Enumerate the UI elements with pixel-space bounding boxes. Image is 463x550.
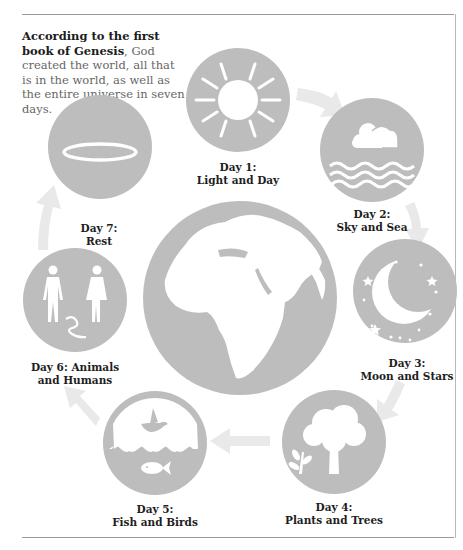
day4-title: Plants and Trees bbox=[264, 514, 404, 527]
day4-tree-icon bbox=[282, 390, 386, 494]
day3-label: Day 3: Moon and Stars bbox=[337, 357, 463, 382]
day3-moon-stars-icon bbox=[353, 239, 457, 343]
day5-number: Day 5: bbox=[85, 503, 225, 516]
day3-title: Moon and Stars bbox=[337, 370, 463, 383]
day2-clouds-waves-icon bbox=[320, 98, 424, 202]
day4-number: Day 4: bbox=[264, 501, 404, 514]
day5-fish-bird-icon bbox=[103, 391, 207, 495]
day3-number: Day 3: bbox=[337, 357, 463, 370]
day6-number: Day 6: Animals bbox=[5, 361, 145, 374]
day1-number: Day 1: bbox=[168, 161, 308, 174]
day1-sun-icon bbox=[186, 48, 290, 152]
day1-label: Day 1: Light and Day bbox=[168, 161, 308, 186]
day2-label: Day 2: Sky and Sea bbox=[302, 208, 442, 233]
day7-number: Day 7: bbox=[29, 222, 169, 235]
day1-title: Light and Day bbox=[168, 174, 308, 187]
creation-cycle-diagram bbox=[0, 0, 463, 550]
day4-label: Day 4: Plants and Trees bbox=[264, 501, 404, 526]
day5-title: Fish and Birds bbox=[85, 516, 225, 529]
day2-title: Sky and Sea bbox=[302, 221, 442, 234]
arrow-day4-to-day5 bbox=[210, 428, 270, 454]
day6-title: and Humans bbox=[5, 374, 145, 387]
day5-label: Day 5: Fish and Birds bbox=[85, 503, 225, 528]
day6-humans-snake-icon bbox=[23, 248, 127, 352]
day6-label: Day 6: Animals and Humans bbox=[5, 361, 145, 386]
arrow-day3-to-day4 bbox=[377, 380, 405, 422]
day2-number: Day 2: bbox=[302, 208, 442, 221]
day7-halo-icon bbox=[48, 95, 152, 199]
arrow-day5-to-day6 bbox=[64, 386, 100, 426]
day7-title: Rest bbox=[29, 235, 169, 248]
day7-label: Day 7: Rest bbox=[29, 222, 169, 247]
